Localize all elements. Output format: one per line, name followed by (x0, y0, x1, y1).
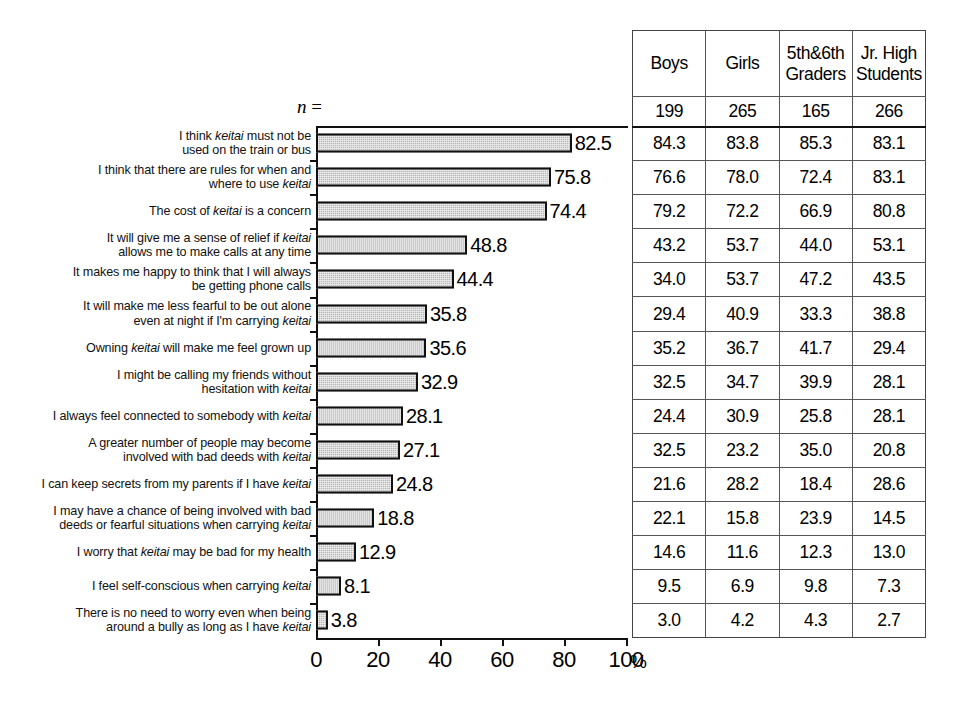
table-cell: 4.2 (706, 604, 779, 638)
table-cell: 53.1 (852, 229, 925, 263)
chart-row: I might be calling my friends withouthes… (0, 365, 632, 399)
y-axis-tick (310, 535, 317, 537)
table-row: 32.523.235.020.8 (633, 433, 926, 467)
table-cell: 9.8 (779, 570, 852, 604)
table-row: 22.115.823.914.5 (633, 502, 926, 536)
bar-slot: 75.8 (316, 160, 632, 194)
y-axis-tick (310, 297, 317, 299)
table-cell: 33.3 (779, 297, 852, 331)
y-axis-tick (310, 365, 317, 367)
table-cell: 83.1 (852, 161, 925, 195)
table-column-header: Boys (633, 31, 706, 97)
table-cell: 76.6 (633, 161, 706, 195)
table-cell: 14.6 (633, 536, 706, 570)
table-row: 76.678.072.483.1 (633, 161, 926, 195)
bar (316, 611, 328, 630)
table-cell: 53.7 (706, 263, 779, 297)
table-cell: 28.6 (852, 467, 925, 501)
bar-value-label: 3.8 (331, 610, 357, 630)
table-cell: 43.2 (633, 229, 706, 263)
bar (316, 440, 400, 459)
bar (316, 509, 374, 528)
bar (316, 372, 418, 391)
table-cell: 35.0 (779, 433, 852, 467)
table-n-cell: 199 (633, 97, 706, 127)
category-label: It makes me happy to think that I will a… (0, 265, 316, 293)
bar-slot: 48.8 (316, 228, 632, 262)
table-cell: 30.9 (706, 399, 779, 433)
table-cell: 29.4 (633, 297, 706, 331)
table-cell: 79.2 (633, 195, 706, 229)
table-cell: 32.5 (633, 365, 706, 399)
data-table-n-row: 199265165266 (633, 97, 926, 127)
bar (316, 168, 551, 187)
table-n-cell: 265 (706, 97, 779, 127)
table-cell: 7.3 (852, 570, 925, 604)
table-cell: 38.8 (852, 297, 925, 331)
table-row: 32.534.739.928.1 (633, 365, 926, 399)
category-label: Owning keitai will make me feel grown up (0, 341, 316, 355)
data-table-wrapper: BoysGirls5th&6thGradersJr. HighStudents … (632, 30, 926, 638)
category-label: I think that there are rules for when an… (0, 163, 316, 191)
data-table-header-row: BoysGirls5th&6thGradersJr. HighStudents (633, 31, 926, 97)
table-n-cell: 266 (852, 97, 925, 127)
data-table-body: 84.383.885.383.176.678.072.483.179.272.2… (633, 127, 926, 638)
table-cell: 83.8 (706, 127, 779, 161)
category-label: I always feel connected to somebody with… (0, 409, 316, 423)
bar-slot: 8.1 (316, 569, 632, 603)
table-cell: 4.3 (779, 604, 852, 638)
table-cell: 34.7 (706, 365, 779, 399)
chart-row: I worry that keitai may be bad for my he… (0, 535, 632, 569)
category-label: It will make me less fearful to be out a… (0, 299, 316, 327)
bar-slot: 3.8 (316, 603, 632, 637)
x-axis-tick (626, 638, 628, 646)
x-axis-unit-label: % (630, 650, 647, 674)
chart-row: It will give me a sense of relief if kei… (0, 228, 632, 262)
bar (316, 338, 426, 357)
table-column-header: Jr. HighStudents (852, 31, 925, 97)
bar-slot: 18.8 (316, 501, 632, 535)
chart-row: There is no need to worry even when bein… (0, 603, 632, 637)
bar (316, 304, 427, 323)
x-axis-tick (440, 638, 442, 646)
table-cell: 72.2 (706, 195, 779, 229)
chart-row: Owning keitai will make me feel grown up… (0, 331, 632, 365)
table-row: 43.253.744.053.1 (633, 229, 926, 263)
x-axis-tick-label: 80 (552, 648, 575, 672)
table-cell: 15.8 (706, 502, 779, 536)
x-axis-tick-label: 0 (310, 648, 322, 672)
table-cell: 23.2 (706, 433, 779, 467)
table-cell: 9.5 (633, 570, 706, 604)
table-cell: 35.2 (633, 331, 706, 365)
chart-plot-area: I think keitai must not beused on the tr… (0, 126, 632, 638)
bar-value-label: 74.4 (550, 201, 587, 221)
table-cell: 39.9 (779, 365, 852, 399)
x-axis-tick-label: 60 (490, 648, 513, 672)
y-axis-tick (310, 569, 317, 571)
y-axis-tick (310, 160, 317, 162)
table-cell: 28.1 (852, 365, 925, 399)
bar-value-label: 35.8 (430, 304, 467, 324)
category-label: I think keitai must not beused on the tr… (0, 129, 316, 157)
table-cell: 18.4 (779, 467, 852, 501)
y-axis-tick (310, 194, 317, 196)
table-row: 21.628.218.428.6 (633, 467, 926, 501)
bar (316, 202, 547, 221)
table-cell: 22.1 (633, 502, 706, 536)
bar-value-label: 27.1 (403, 440, 440, 460)
table-cell: 24.4 (633, 399, 706, 433)
figure-bar-chart-with-table: I think keitai must not beused on the tr… (0, 0, 958, 713)
category-label: It will give me a sense of relief if kei… (0, 231, 316, 259)
table-cell: 44.0 (779, 229, 852, 263)
table-cell: 29.4 (852, 331, 925, 365)
table-cell: 72.4 (779, 161, 852, 195)
x-axis-tick (502, 638, 504, 646)
table-cell: 85.3 (779, 127, 852, 161)
chart-row: A greater number of people may becomeinv… (0, 433, 632, 467)
bar (316, 474, 393, 493)
bar-value-label: 32.9 (421, 372, 458, 392)
chart-row: I think that there are rules for when an… (0, 160, 632, 194)
table-row: 3.04.24.32.7 (633, 604, 926, 638)
table-cell: 28.1 (852, 399, 925, 433)
bar (316, 236, 467, 255)
